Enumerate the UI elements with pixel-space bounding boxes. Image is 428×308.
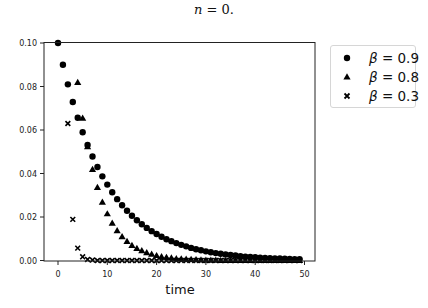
legend-value: = 0.3 — [378, 88, 419, 104]
data-point — [129, 212, 135, 218]
data-point — [94, 164, 100, 170]
legend-symbol: β — [369, 88, 378, 104]
data-point — [124, 207, 130, 213]
plot-frame — [44, 43, 315, 262]
data-point — [114, 196, 120, 202]
x-tick-label: 50 — [299, 270, 309, 279]
y-tick-label: 0.08 — [19, 83, 37, 92]
data-point — [99, 199, 106, 205]
legend-symbol: β — [369, 69, 378, 85]
data-point — [118, 233, 125, 239]
legend-symbol: β — [369, 50, 378, 66]
y-tick-label: 0.06 — [19, 126, 37, 135]
data-point — [70, 99, 76, 105]
y-tick-label: 0.10 — [19, 39, 37, 48]
data-point — [90, 258, 95, 263]
circle-marker-icon — [341, 52, 353, 64]
data-point — [104, 181, 110, 187]
data-point — [99, 173, 105, 179]
legend-value: = 0.8 — [378, 69, 419, 85]
x-tick-label: 20 — [152, 270, 162, 279]
data-point — [79, 129, 85, 135]
y-tick-label: 0.02 — [19, 213, 37, 222]
x-tick-label: 10 — [102, 270, 112, 279]
x-axis-ticks: 01020304050 — [55, 261, 309, 279]
y-tick-label: 0.00 — [19, 257, 37, 266]
data-point — [65, 121, 70, 126]
data-points — [55, 40, 303, 263]
x-marker-icon — [341, 90, 353, 102]
data-point — [109, 219, 116, 225]
triangle-marker-icon — [341, 71, 353, 83]
data-point — [104, 210, 111, 216]
data-point — [74, 79, 81, 85]
data-point — [80, 254, 85, 259]
data-point — [94, 184, 101, 190]
y-axis-ticks: 0.000.020.040.060.080.10 — [19, 39, 44, 266]
data-point — [65, 81, 71, 87]
data-point — [114, 227, 121, 233]
data-point — [119, 202, 125, 208]
data-point — [109, 189, 115, 195]
legend-value: = 0.9 — [378, 50, 419, 66]
y-tick-label: 0.04 — [19, 170, 37, 179]
legend-item-beta-0.8: β = 0.8 — [331, 68, 417, 87]
data-point — [70, 217, 75, 222]
x-tick-label: 30 — [201, 270, 211, 279]
x-tick-label: 0 — [55, 270, 60, 279]
x-tick-label: 40 — [250, 270, 260, 279]
legend-item-beta-0.9: β = 0.9 — [331, 49, 417, 68]
legend: β = 0.9 β = 0.8 β = 0.3 — [330, 45, 416, 108]
legend-item-beta-0.3: β = 0.3 — [331, 87, 417, 106]
data-point — [75, 246, 80, 251]
data-point — [60, 62, 66, 68]
data-point — [89, 153, 95, 159]
x-axis-label: time — [165, 282, 194, 297]
